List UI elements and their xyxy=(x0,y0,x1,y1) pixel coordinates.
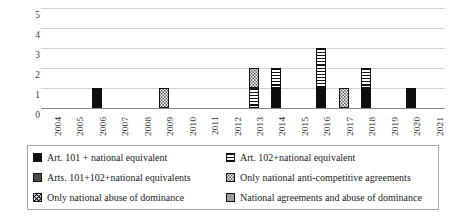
bar-column-2007 xyxy=(108,8,130,108)
x-axis-line xyxy=(41,108,445,109)
chart-legend: Art. 101 + national equivalentArt. 102+n… xyxy=(27,145,439,210)
bar-column-2013 xyxy=(243,8,265,108)
bar-segment-2016-0[interactable] xyxy=(316,88,326,108)
legend-swatch-gray xyxy=(226,193,235,202)
legend-item-label: Art. 101 + national equivalent xyxy=(47,152,167,163)
legend-item-label: Art. 102+national equivalent xyxy=(240,152,355,163)
bar-column-2020 xyxy=(400,8,422,108)
bar-column-2016 xyxy=(310,8,332,108)
bars-layer xyxy=(41,8,445,108)
x-tick-label-2011: 2011 xyxy=(198,111,220,141)
legend-item[interactable]: Art. 102+national equivalent xyxy=(226,152,434,163)
bar-stack-2018[interactable] xyxy=(361,68,371,108)
bar-segment-2018-0[interactable] xyxy=(361,88,371,108)
legend-item-label: Only national anti-competitive agreement… xyxy=(240,172,411,183)
bar-stack-2020[interactable] xyxy=(406,88,416,108)
bar-stack-2016[interactable] xyxy=(316,48,326,108)
legend-swatch-dark-gray xyxy=(33,173,42,182)
stacked-bar-chart: 543210 200420052006200720082009201020112… xyxy=(0,0,461,218)
bar-segment-2013-0[interactable] xyxy=(249,88,259,108)
x-tick-label-2005: 2005 xyxy=(63,111,85,141)
x-tick-label-2014: 2014 xyxy=(265,111,287,141)
x-tick-label-2004: 2004 xyxy=(41,111,63,141)
x-tick-label-2006: 2006 xyxy=(86,111,108,141)
x-tick-label-2018: 2018 xyxy=(355,111,377,141)
bar-column-2015 xyxy=(288,8,310,108)
legend-swatch-solid-black xyxy=(33,153,42,162)
x-tick-label-2021: 2021 xyxy=(423,111,445,141)
legend-item[interactable]: Only national abuse of dominance xyxy=(33,192,226,203)
bar-segment-2016-1[interactable] xyxy=(316,48,326,88)
x-tick-label-2013: 2013 xyxy=(243,111,265,141)
bar-column-2017 xyxy=(333,8,355,108)
bar-stack-2017[interactable] xyxy=(339,88,349,108)
bar-column-2021 xyxy=(423,8,445,108)
bar-segment-2014-0[interactable] xyxy=(271,88,281,108)
bar-segment-2014-1[interactable] xyxy=(271,68,281,88)
bar-segment-2018-1[interactable] xyxy=(361,68,371,88)
bar-segment-2017-0[interactable] xyxy=(339,88,349,108)
y-tick-label-3: 3 xyxy=(22,51,40,61)
bar-segment-2013-1[interactable] xyxy=(249,68,259,88)
legend-item[interactable]: National agreements and abuse of dominan… xyxy=(226,192,434,203)
y-tick-label-4: 4 xyxy=(22,31,40,41)
bar-column-2005 xyxy=(63,8,85,108)
legend-item[interactable]: Only national anti-competitive agreement… xyxy=(226,172,434,183)
bar-segment-2020-0[interactable] xyxy=(406,88,416,108)
plot-area: 543210 200420052006200720082009201020112… xyxy=(0,0,461,140)
legend-item[interactable]: Arts. 101+102+national equivalents xyxy=(33,172,226,183)
legend-item[interactable]: Art. 101 + national equivalent xyxy=(33,152,226,163)
x-tick-label-2010: 2010 xyxy=(176,111,198,141)
x-tick-label-2008: 2008 xyxy=(131,111,153,141)
bar-column-2018 xyxy=(355,8,377,108)
bar-column-2014 xyxy=(265,8,287,108)
y-axis: 543210 xyxy=(20,8,40,108)
legend-swatch-horizontal-stripes xyxy=(226,153,235,162)
bar-stack-2009[interactable] xyxy=(159,88,169,108)
bar-stack-2014[interactable] xyxy=(271,68,281,108)
bar-column-2004 xyxy=(41,8,63,108)
x-tick-label-2015: 2015 xyxy=(288,111,310,141)
legend-swatch-dotted-black xyxy=(33,193,42,202)
bar-column-2006 xyxy=(86,8,108,108)
x-tick-label-2016: 2016 xyxy=(310,111,332,141)
legend-item-label: Arts. 101+102+national equivalents xyxy=(47,172,191,183)
x-tick-label-2007: 2007 xyxy=(108,111,130,141)
x-tick-label-2020: 2020 xyxy=(400,111,422,141)
x-tick-label-2017: 2017 xyxy=(333,111,355,141)
y-tick-label-1: 1 xyxy=(22,91,40,101)
x-tick-label-2012: 2012 xyxy=(221,111,243,141)
bar-segment-2006-0[interactable] xyxy=(92,88,102,108)
y-tick-label-0: 0 xyxy=(22,111,40,121)
legend-grid: Art. 101 + national equivalentArt. 102+n… xyxy=(28,146,438,209)
bar-column-2019 xyxy=(378,8,400,108)
legend-swatch-dotted xyxy=(226,173,235,182)
bar-column-2010 xyxy=(176,8,198,108)
bar-column-2009 xyxy=(153,8,175,108)
y-tick-label-5: 5 xyxy=(22,11,40,21)
y-tick-label-2: 2 xyxy=(22,71,40,81)
bar-stack-2013[interactable] xyxy=(249,68,259,108)
bar-column-2008 xyxy=(131,8,153,108)
legend-item-label: Only national abuse of dominance xyxy=(47,192,184,203)
bar-segment-2009-0[interactable] xyxy=(159,88,169,108)
bar-column-2011 xyxy=(198,8,220,108)
bar-stack-2006[interactable] xyxy=(92,88,102,108)
legend-item-label: National agreements and abuse of dominan… xyxy=(240,192,422,203)
x-tick-label-2019: 2019 xyxy=(378,111,400,141)
x-tick-label-2009: 2009 xyxy=(153,111,175,141)
bar-column-2012 xyxy=(221,8,243,108)
